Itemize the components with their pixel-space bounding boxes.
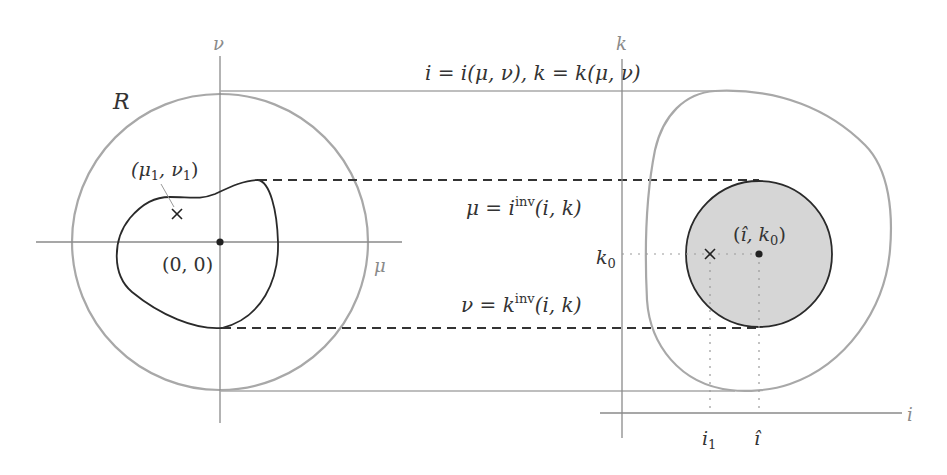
diagram-canvas: R ν μ (0, 0) (μ1, ν1) i = i(μ, ν), k = k… — [0, 0, 947, 475]
point-mu1-nu1-marker — [172, 209, 182, 219]
nu-axis-label: ν — [213, 33, 224, 54]
center-label: (î, k0) — [733, 223, 786, 248]
k-axis-label: k — [616, 33, 627, 54]
ihat-label: î — [754, 427, 762, 449]
i1-label: i1 — [702, 427, 716, 452]
k0-label: k0 — [596, 246, 616, 271]
origin-label: (0, 0) — [162, 253, 213, 275]
region-label: R — [112, 89, 130, 114]
forward-mapping-label: i = i(μ, ν), k = k(μ, ν) — [425, 61, 641, 85]
i-axis-label: i — [907, 404, 913, 425]
mu-axis-label: μ — [374, 255, 386, 276]
mapping-guides — [220, 91, 759, 391]
center-point-dot — [755, 250, 762, 257]
mu-inverse-label: μ = iinv(i, k) — [466, 194, 582, 220]
right-panel: k i (î, k0) k0 i1 î — [596, 33, 913, 452]
point-label: (μ1, ν1) — [131, 158, 198, 183]
nu-inverse-label: ν = kinv(i, k) — [461, 291, 581, 317]
origin-dot — [216, 238, 223, 245]
point-leader-line — [161, 184, 174, 207]
